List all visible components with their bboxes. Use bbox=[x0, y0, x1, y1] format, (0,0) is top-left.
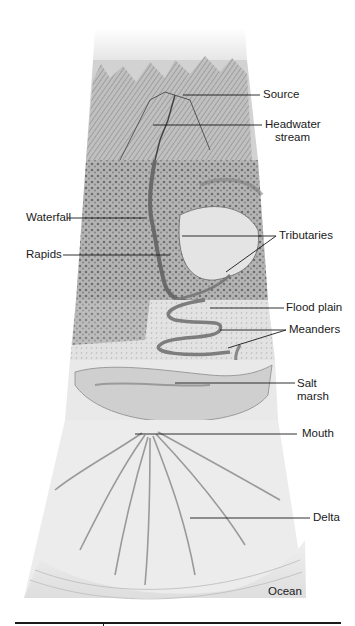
bottom-rule bbox=[15, 622, 341, 624]
label-headwater-line2: stream bbox=[265, 131, 320, 144]
sky bbox=[93, 28, 247, 60]
label-salt-line1: Salt bbox=[297, 377, 329, 390]
label-headwater-line1: Headwater bbox=[265, 118, 320, 131]
label-salt-marsh: Salt marsh bbox=[297, 377, 329, 403]
delta-area bbox=[24, 420, 306, 598]
label-headwater-stream: Headwater stream bbox=[265, 118, 320, 144]
label-source: Source bbox=[263, 88, 299, 101]
label-ocean: Ocean bbox=[268, 585, 302, 598]
label-rapids: Rapids bbox=[26, 248, 62, 261]
label-tributaries: Tributaries bbox=[279, 229, 333, 242]
panel bbox=[24, 28, 306, 599]
bottom-rule-tick bbox=[103, 622, 104, 626]
label-mouth: Mouth bbox=[302, 427, 334, 440]
label-salt-line2: marsh bbox=[297, 390, 329, 403]
label-waterfall: Waterfall bbox=[26, 211, 71, 224]
label-flood-plain: Flood plain bbox=[286, 301, 342, 314]
flood-plain-woods bbox=[72, 300, 150, 345]
label-meanders: Meanders bbox=[289, 323, 340, 336]
label-delta: Delta bbox=[313, 511, 340, 524]
